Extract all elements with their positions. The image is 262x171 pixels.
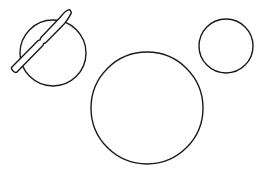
diagram-canvas bbox=[0, 0, 262, 171]
large-plate-circle bbox=[91, 52, 203, 164]
small-right-plate-circle bbox=[199, 19, 253, 73]
diagram-svg bbox=[0, 0, 262, 171]
